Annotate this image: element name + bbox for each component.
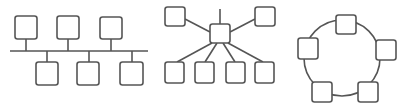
star-hub-node bbox=[210, 24, 230, 43]
star-node bbox=[255, 7, 275, 26]
star-node bbox=[255, 62, 274, 83]
ring-topology bbox=[298, 15, 396, 102]
star-node bbox=[165, 7, 185, 26]
star-topology bbox=[165, 7, 275, 83]
star-node bbox=[195, 62, 214, 83]
ring-node bbox=[358, 82, 378, 102]
ring-node bbox=[312, 82, 332, 102]
bus-node bbox=[77, 62, 99, 85]
topology-svg bbox=[0, 0, 407, 108]
ring-node bbox=[336, 15, 356, 34]
bus-node bbox=[57, 16, 79, 39]
bus-node bbox=[100, 17, 122, 39]
star-link-line bbox=[230, 19, 255, 32]
star-node bbox=[165, 62, 184, 83]
star-node bbox=[226, 62, 245, 83]
bus-node bbox=[36, 62, 58, 85]
bus-node bbox=[120, 62, 143, 85]
bus-node bbox=[15, 16, 37, 39]
ring-node bbox=[376, 40, 396, 60]
ring-node bbox=[298, 38, 318, 59]
network-topologies-diagram bbox=[0, 0, 407, 108]
bus-topology bbox=[10, 16, 148, 85]
star-link-line bbox=[185, 19, 210, 32]
